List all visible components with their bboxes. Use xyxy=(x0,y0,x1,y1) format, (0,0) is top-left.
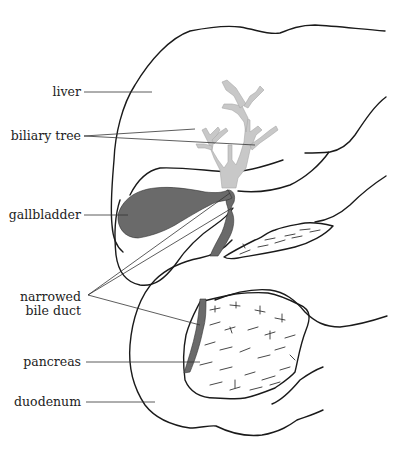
label-narrowed-bile-duct-line2: bile duct xyxy=(20,304,81,318)
label-liver: liver xyxy=(53,85,81,99)
narrowed-bile-duct-leader-line-3 xyxy=(88,295,200,325)
label-pancreas: pancreas xyxy=(23,355,81,369)
stomach-upper-edge xyxy=(315,176,386,222)
duodenum-upper-outline xyxy=(130,240,323,435)
gallbladder-shape xyxy=(118,187,232,238)
biliary-tree-leader-line-1 xyxy=(84,129,195,136)
biliary-tree-shape xyxy=(196,80,278,188)
liver-inferior-edge xyxy=(238,152,329,192)
duodenum-right-band xyxy=(215,290,387,327)
label-narrowed-bile-duct-line1: narrowed xyxy=(20,290,81,304)
pancreas-body-outline xyxy=(224,223,333,259)
label-gallbladder: gallbladder xyxy=(9,208,81,222)
liver-right-lobe-edge xyxy=(305,97,386,153)
label-duodenum: duodenum xyxy=(14,395,81,409)
label-narrowed-bile-duct: narrowed bile duct xyxy=(20,290,81,318)
anatomy-diagram: liver biliary tree gallbladder narrowed … xyxy=(0,0,411,465)
label-biliary-tree: biliary tree xyxy=(11,129,81,143)
biliary-tree-leader-line-2 xyxy=(84,136,255,145)
